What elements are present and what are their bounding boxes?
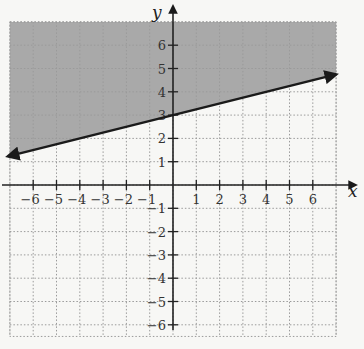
x-tick-label: 1 — [192, 192, 200, 207]
x-tick-label: 2 — [215, 192, 223, 207]
y-tick-label: −5 — [147, 295, 166, 310]
x-tick-label: −2 — [114, 192, 133, 207]
x-tick-label: 4 — [262, 192, 270, 207]
inequality-chart: −6−5−4−3−2−1123456−6−5−4−3−2−1123456 x y — [0, 0, 364, 349]
y-axis-label: y — [151, 2, 162, 22]
y-tick-label: −2 — [147, 225, 166, 240]
y-tick-label: −4 — [147, 271, 166, 286]
x-tick-label: 5 — [285, 192, 293, 207]
x-tick-label: −4 — [67, 192, 86, 207]
x-tick-label: −5 — [44, 192, 63, 207]
x-tick-label: 3 — [239, 192, 247, 207]
y-tick-label: −3 — [147, 248, 166, 263]
y-tick-label: 4 — [158, 85, 166, 100]
x-axis-label: x — [348, 181, 358, 201]
y-tick-label: 1 — [158, 155, 166, 170]
y-tick-label: 5 — [158, 62, 166, 77]
x-tick-label: −3 — [91, 192, 110, 207]
x-tick-label: −6 — [21, 192, 40, 207]
y-tick-label: 6 — [158, 38, 166, 53]
y-tick-label: 3 — [158, 108, 166, 123]
x-tick-label: 6 — [309, 192, 317, 207]
y-tick-label: −6 — [147, 318, 166, 333]
y-tick-label: −1 — [147, 201, 166, 216]
y-tick-label: 2 — [158, 131, 166, 146]
